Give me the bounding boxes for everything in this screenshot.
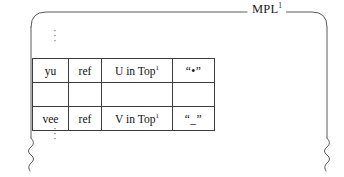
cell-name: yu bbox=[33, 59, 69, 83]
cell-token: “•” bbox=[173, 59, 215, 83]
cell-scope: U in Top1 bbox=[102, 59, 173, 83]
table-row: yu ref U in Top1 “•” bbox=[33, 59, 215, 83]
frame-right-squiggle bbox=[325, 138, 330, 171]
gap-cell bbox=[173, 83, 215, 107]
gap-cell bbox=[102, 83, 173, 107]
frame-title-superscript: 1 bbox=[278, 1, 282, 10]
frame-title-label: MPL1 bbox=[248, 1, 286, 17]
cell-kind: ref bbox=[69, 107, 102, 131]
cell-kind: ref bbox=[69, 59, 102, 83]
vertical-ellipsis-bottom: · · · bbox=[50, 126, 60, 141]
gap-cell bbox=[69, 83, 102, 107]
gap-cell bbox=[33, 83, 69, 107]
frame-left-squiggle bbox=[29, 138, 34, 171]
cell-scope-text: V in Top bbox=[115, 113, 155, 125]
frame-title-text: MPL bbox=[252, 2, 278, 16]
vertical-ellipsis-top: · · · bbox=[50, 28, 60, 43]
figure-root: MPL1 · · · yu ref U in Top1 “•” vee ref … bbox=[0, 0, 344, 177]
table-row-gap bbox=[33, 83, 215, 107]
cell-scope-text: U in Top bbox=[115, 65, 156, 77]
cell-scope: V in Top1 bbox=[102, 107, 173, 131]
frame-top-right-rule bbox=[286, 12, 327, 138]
cell-token: “_” bbox=[173, 107, 215, 131]
ellipsis-dot: · bbox=[50, 38, 60, 43]
cell-scope-superscript: 1 bbox=[156, 64, 160, 72]
symbol-table: yu ref U in Top1 “•” vee ref V in Top1 “… bbox=[32, 58, 215, 131]
ellipsis-dot: · bbox=[50, 136, 60, 141]
frame-top-left-rule bbox=[31, 12, 247, 27]
cell-scope-superscript: 1 bbox=[155, 112, 159, 120]
